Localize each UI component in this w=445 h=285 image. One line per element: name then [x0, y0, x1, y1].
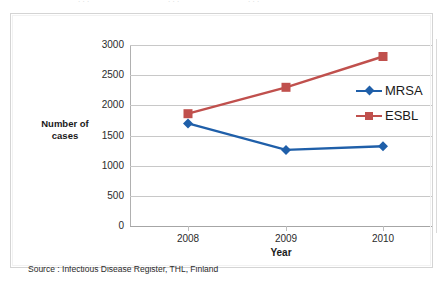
plot-right-border [436, 39, 437, 233]
x-axis-line [130, 226, 432, 227]
y-tick-label: 2500 [84, 70, 124, 80]
x-tick-label: 2009 [275, 233, 297, 244]
y-tick-label: 1500 [84, 131, 124, 141]
source-note: Source : Infectious Disease Register, TH… [28, 264, 218, 274]
legend-label-esbl: ESBL [385, 109, 418, 123]
y-tick-label: 0 [84, 221, 124, 231]
chart-figure-frame: Number of cases 3000 2500 2000 1500 1000… [10, 13, 433, 268]
x-axis-tick-labels: 2008 2009 2010 [130, 233, 432, 247]
series-mrsa-marker-2008 [183, 118, 193, 128]
cropped-header-fragment-2: . . . [168, 0, 179, 4]
y-tick-label: 3000 [84, 40, 124, 50]
y-tick-label: 500 [84, 191, 124, 201]
x-tick-mark-2009 [286, 226, 287, 231]
x-tick-label: 2008 [177, 233, 199, 244]
series-esbl-marker-2008 [184, 109, 193, 118]
cropped-header-strip: . . . . . . . . . [0, 0, 445, 7]
series-mrsa-marker-2009 [281, 145, 291, 155]
legend-marker-square-icon [356, 110, 382, 122]
legend-label-mrsa: MRSA [385, 84, 423, 98]
series-esbl-marker-2010 [379, 52, 388, 61]
series-plot-svg [130, 45, 432, 226]
legend-item-esbl[interactable]: ESBL [356, 103, 442, 128]
x-axis-title: Year [130, 247, 432, 258]
cropped-header-fragment-3: . . . [248, 0, 259, 4]
series-esbl-marker-2009 [282, 83, 291, 92]
y-tick-label: 2000 [84, 100, 124, 110]
plot-area [130, 45, 432, 226]
y-axis-tick-labels: 3000 2500 2000 1500 1000 500 0 [84, 45, 124, 226]
x-tick-mark-2008 [188, 226, 189, 231]
legend-item-mrsa[interactable]: MRSA [356, 78, 442, 103]
x-tick-label: 2010 [372, 233, 394, 244]
x-tick-mark-2010 [383, 226, 384, 231]
cropped-header-fragment-1: . . . [78, 0, 89, 4]
y-tick-label: 1000 [84, 161, 124, 171]
legend-marker-diamond-icon [356, 85, 382, 97]
chart-legend: MRSA ESBL [356, 78, 442, 128]
series-mrsa-marker-2010 [378, 141, 388, 151]
